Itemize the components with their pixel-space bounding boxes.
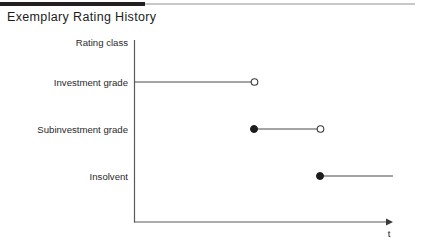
insolvent-start-filled-circle-marker xyxy=(317,173,324,180)
subinvestment-grade-start-filled-circle-marker xyxy=(251,126,258,133)
y-axis-label-investment-grade: Investment grade xyxy=(54,77,128,88)
y-axis-label-insolvent: Insolvent xyxy=(90,171,129,182)
x-axis-arrow-icon xyxy=(386,219,393,226)
investment-grade-end-open-circle-marker xyxy=(251,79,258,86)
rating-history-plot: Rating class Investment grade Subinvestm… xyxy=(0,0,423,250)
y-axis-title: Rating class xyxy=(76,37,128,48)
y-axis-label-subinvestment-grade: Subinvestment grade xyxy=(37,124,128,135)
chart-figure: Exemplary Rating History Rating class In… xyxy=(0,0,423,250)
subinvestment-grade-end-open-circle-marker xyxy=(317,126,324,133)
x-axis-label: t xyxy=(388,228,391,239)
